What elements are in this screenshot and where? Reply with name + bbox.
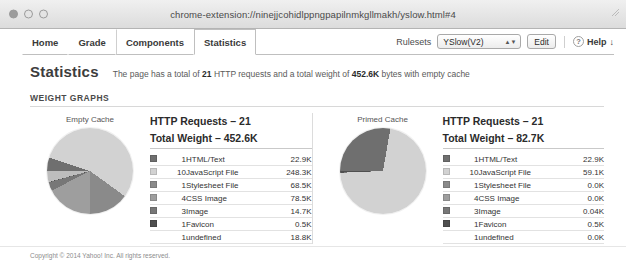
resize-grip-icon[interactable] [612, 9, 620, 17]
row-count: 1 [164, 153, 186, 166]
row-color-swatch-cell [443, 179, 457, 192]
table-row: 3Image0.04K [443, 205, 605, 218]
table-row: 4CSS Image78.5K [150, 192, 312, 205]
row-color-swatch-cell [443, 192, 457, 205]
ruleset-select[interactable]: YSlow(V2) ▲▼ [437, 34, 521, 49]
edit-button[interactable]: Edit [527, 34, 556, 49]
row-color-swatch-cell [150, 192, 164, 205]
tab-components[interactable]: Components [116, 29, 194, 55]
row-color-swatch-cell [443, 205, 457, 218]
row-count: 4 [457, 192, 479, 205]
row-type: HTML/Text [186, 153, 272, 166]
summary-prefix: The page has a total of [113, 69, 200, 79]
statistics-header: Statistics The page has a total of 21 HT… [30, 63, 604, 80]
row-count: 1 [164, 231, 186, 244]
pie-chart-empty-cache [47, 128, 133, 214]
pie-caption-empty-cache: Empty Cache [30, 115, 150, 124]
color-swatch-icon [150, 181, 157, 188]
row-size: 0.0K [564, 231, 604, 244]
help-button[interactable]: ? Help ↓ [573, 36, 614, 47]
row-color-swatch-cell [150, 179, 164, 192]
table-row: 1Favicon0.5K [443, 218, 605, 231]
color-swatch-icon [150, 155, 157, 162]
question-mark-icon: ? [573, 36, 584, 47]
table-row: 1Stylesheet File0.0K [443, 179, 605, 192]
window-controls [9, 10, 48, 19]
stats-table-primed-cache: 1HTML/Text22.9K10JavaScript File59.1K1St… [443, 153, 605, 244]
row-color-swatch-cell [150, 218, 164, 231]
table-wrap-empty-cache: HTTP Requests – 21 Total Weight – 452.6K… [150, 113, 312, 244]
panel-empty-cache: Empty Cache HTTP Requests – 21 Total Wei… [30, 113, 312, 244]
tab-grade[interactable]: Grade [68, 29, 115, 55]
row-color-swatch-cell [443, 218, 457, 231]
row-type: Image [186, 205, 272, 218]
row-count: 10 [457, 166, 479, 179]
row-count: 1 [457, 218, 479, 231]
http-requests-line-empty-cache: HTTP Requests – 21 [150, 115, 312, 127]
color-swatch-icon [443, 181, 450, 188]
color-swatch-icon [443, 194, 450, 201]
row-count: 1 [164, 218, 186, 231]
row-size: 0.5K [564, 218, 604, 231]
row-count: 4 [164, 192, 186, 205]
tab-filler [256, 29, 388, 55]
row-size: 0.0K [564, 179, 604, 192]
color-swatch-icon [150, 220, 157, 227]
pie-wrap-primed-cache: Primed Cache [323, 113, 443, 214]
row-size: 14.7K [272, 205, 312, 218]
app-toolbar: Home Grade Components Statistics Ruleset… [0, 29, 626, 55]
stats-table-empty-cache: 1HTML/Text22.9K10JavaScript File248.3K1S… [150, 153, 312, 244]
toolbar-right-group: Rulesets YSlow(V2) ▲▼ Edit ? Help ↓ [388, 29, 614, 55]
row-color-swatch-cell [443, 153, 457, 166]
help-label: Help [587, 37, 607, 47]
minimize-window-button[interactable] [24, 10, 33, 19]
rulesets-label: Rulesets [396, 37, 431, 47]
weight-graphs-panels: Empty Cache HTTP Requests – 21 Total Wei… [30, 113, 604, 244]
row-color-swatch-cell [150, 231, 164, 244]
table-row: 10JavaScript File59.1K [443, 166, 605, 179]
row-count: 1 [457, 179, 479, 192]
row-color-swatch-cell [150, 166, 164, 179]
row-type: Favicon [186, 218, 272, 231]
pie-wrap-empty-cache: Empty Cache [30, 113, 150, 214]
table-row: 1HTML/Text22.9K [443, 153, 605, 166]
copyright-text: Copyright © 2014 Yahoo! Inc. All rights … [30, 252, 170, 259]
tab-home[interactable]: Home [22, 29, 68, 55]
close-window-button[interactable] [9, 10, 18, 19]
row-type: Favicon [479, 218, 565, 231]
row-type: Image [479, 205, 565, 218]
row-count: 10 [164, 166, 186, 179]
chevron-updown-icon: ▲▼ [504, 39, 516, 45]
page-content: Statistics The page has a total of 21 HT… [0, 55, 626, 244]
browser-window: chrome-extension://ninejjcohidlppngpapil… [0, 0, 626, 264]
row-color-swatch-cell [443, 166, 457, 179]
window-title: chrome-extension://ninejjcohidlppngpapil… [0, 9, 626, 20]
table-row: 1HTML/Text22.9K [150, 153, 312, 166]
row-count: 3 [164, 205, 186, 218]
tab-statistics[interactable]: Statistics [194, 29, 256, 55]
page-title: Statistics [30, 63, 99, 80]
row-count: 1 [457, 231, 479, 244]
footer: Copyright © 2014 Yahoo! Inc. All rights … [0, 246, 626, 264]
table-row: 4CSS Image0.0K [443, 192, 605, 205]
row-size: 18.8K [272, 231, 312, 244]
summary-suffix: bytes with empty cache [382, 69, 470, 79]
row-size: 22.9K [564, 153, 604, 166]
table-wrap-primed-cache: HTTP Requests – 21 Total Weight – 82.7K … [443, 113, 605, 244]
table-row: 1Favicon0.5K [150, 218, 312, 231]
row-type: undefined [479, 231, 565, 244]
row-type: JavaScript File [479, 166, 565, 179]
summary-middle: HTTP requests and a total weight of [214, 69, 349, 79]
row-type: HTML/Text [479, 153, 565, 166]
row-size: 248.3K [272, 166, 312, 179]
table-row: 1undefined18.8K [150, 231, 312, 244]
pie-chart-primed-cache [340, 128, 426, 214]
zoom-window-button[interactable] [39, 10, 48, 19]
nav-tabs: Home Grade Components Statistics [22, 29, 256, 55]
summary-total-weight: 452.6K [352, 69, 379, 79]
row-color-swatch-cell [443, 231, 457, 244]
row-count: 3 [457, 205, 479, 218]
row-type: Stylesheet File [479, 179, 565, 192]
color-swatch-icon [443, 220, 450, 227]
color-swatch-icon [443, 207, 450, 214]
